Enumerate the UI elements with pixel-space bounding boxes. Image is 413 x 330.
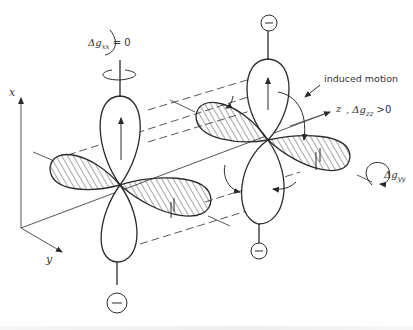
x-axis-label: x: [9, 87, 15, 98]
delta-g-zz-label: , Δgzz >0: [346, 105, 391, 118]
left-bottom-lobe: [101, 185, 137, 262]
z-axis-label: z: [336, 104, 341, 114]
delta-g-yy-label: Δgyy: [384, 170, 406, 183]
delta-g-xx-label: Δgxx = 0: [88, 38, 131, 51]
cropped-caption: [0, 326, 413, 330]
y-axis: [21, 228, 62, 252]
right-d-orbital: [196, 31, 350, 243]
right-bottom-lobe: [242, 140, 284, 224]
orbital-diagram: x y z Δgxx = 0 , Δgzz >0 Δgyy induced mo…: [0, 0, 413, 330]
diagram-canvas: [0, 0, 413, 330]
left-d-orbital: [50, 60, 211, 285]
induced-motion-label: induced motion: [324, 74, 398, 84]
y-axis-label: y: [46, 254, 52, 265]
